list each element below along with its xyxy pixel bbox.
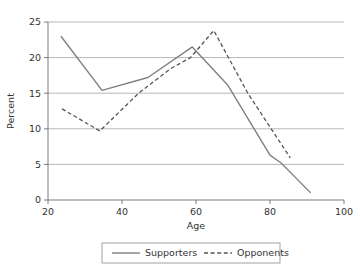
- x-tick-label-20: 20: [42, 206, 54, 217]
- legend-label-supporters: Supporters: [145, 247, 197, 258]
- x-tick-label-80: 80: [264, 206, 276, 217]
- x-axis-title: Age: [187, 220, 206, 231]
- y-tick-label-0: 0: [35, 194, 41, 205]
- chart-container: 20406080100 0510152025 Age Percent Suppo…: [0, 0, 360, 270]
- x-tick-label-100: 100: [335, 206, 353, 217]
- legend-label-opponents: Opponents: [237, 247, 289, 258]
- y-tick-label-15: 15: [29, 88, 41, 99]
- y-axis-title: Percent: [5, 93, 16, 129]
- y-tick-label-20: 20: [29, 52, 41, 63]
- y-tick-label-10: 10: [29, 123, 41, 134]
- x-tick-label-40: 40: [116, 206, 128, 217]
- chart-background: [0, 0, 360, 270]
- line-chart: 20406080100 0510152025 Age Percent Suppo…: [0, 0, 360, 270]
- y-tick-label-5: 5: [35, 159, 41, 170]
- y-tick-label-25: 25: [29, 16, 41, 27]
- x-tick-label-60: 60: [190, 206, 202, 217]
